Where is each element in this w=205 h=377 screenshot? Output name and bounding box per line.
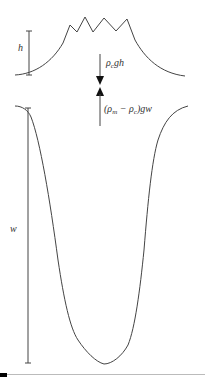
buoyancy-arrow — [96, 87, 104, 126]
root-depth-label: w — [10, 223, 17, 234]
isostasy-diagram: h ρcgh (ρm − ρc)gw w — [0, 0, 205, 377]
bottom-rule-marker — [0, 373, 7, 377]
crustal-root-curve — [15, 106, 188, 364]
height-label: h — [18, 42, 23, 53]
height-bracket — [26, 31, 32, 75]
root-depth-bracket — [25, 108, 31, 363]
crust-load-arrow — [96, 54, 104, 85]
crust-load-label: ρcgh — [105, 57, 124, 70]
buoyancy-label: (ρm − ρc)gw — [104, 103, 152, 116]
